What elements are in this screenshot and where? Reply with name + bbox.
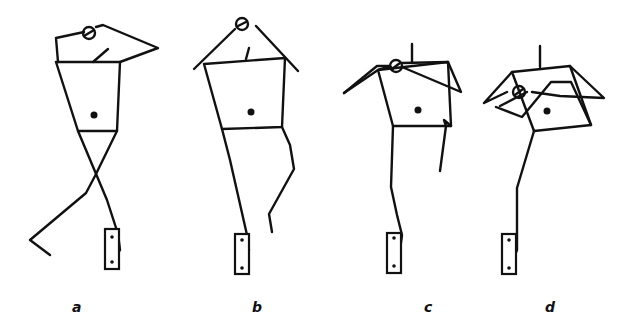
panel-label-d: d [545, 299, 555, 315]
panel-label-a: a [72, 299, 81, 315]
panel-label-b: b [252, 299, 262, 315]
panel-c-figure [344, 44, 461, 273]
panel-d-figure [484, 46, 604, 274]
panel-b-figure [194, 18, 298, 274]
panel-a-figure [30, 25, 158, 269]
stick-figure-diagram [0, 0, 633, 335]
panel-label-c: c [424, 299, 432, 315]
